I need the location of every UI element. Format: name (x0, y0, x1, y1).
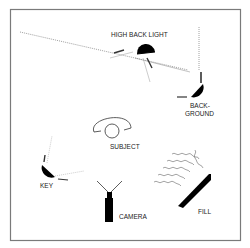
beam-line-back (135, 58, 190, 72)
high-back-light-label: HIGH BACK LIGHT (111, 31, 168, 38)
key-light-icon (42, 136, 84, 180)
high-back-light-icon (110, 44, 155, 82)
key-label: KEY (40, 182, 54, 189)
camera-label: CAMERA (119, 213, 147, 220)
subject-icon (93, 118, 131, 138)
background-label-line2: GROUND (185, 110, 214, 117)
background-light-icon (177, 84, 204, 97)
background-label-line1: BACK- (190, 102, 210, 109)
diagram-border (11, 10, 241, 241)
fill-label: FILL (198, 208, 211, 215)
lighting-diagram: HIGH BACK LIGHT BACK- GROUND SUBJECT KEY (0, 0, 250, 248)
fill-light-icon (154, 150, 211, 208)
subject-label: SUBJECT (110, 143, 140, 150)
